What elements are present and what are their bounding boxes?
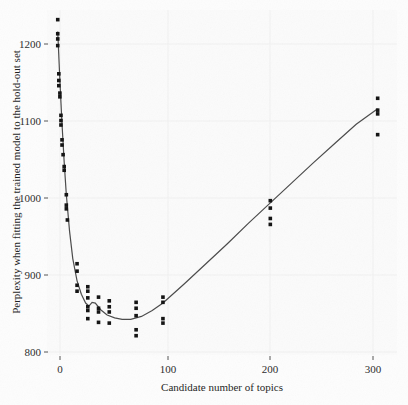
data-point	[134, 334, 138, 338]
x-tick-label-300: 300	[365, 363, 382, 375]
data-point	[86, 317, 90, 321]
data-point	[86, 305, 90, 309]
data-point	[56, 37, 60, 41]
y-tick-label-1000: 1000	[19, 192, 42, 204]
y-tick-label-800: 800	[25, 346, 42, 358]
data-point	[56, 32, 60, 36]
data-point	[161, 295, 165, 299]
data-point	[60, 138, 64, 142]
data-point	[107, 321, 111, 325]
data-point	[269, 217, 273, 221]
data-point	[66, 218, 70, 222]
data-point	[58, 91, 62, 95]
data-point	[134, 328, 138, 332]
data-point	[97, 306, 101, 310]
data-point	[134, 306, 138, 310]
plot-panel	[47, 10, 397, 355]
y-axis-title: Perplexity when fitting the trained mode…	[10, 50, 22, 314]
data-point	[107, 310, 111, 314]
x-axis-title: Candidate number of topics	[161, 381, 283, 393]
data-point	[57, 84, 61, 88]
data-point	[65, 207, 69, 211]
data-point	[107, 299, 111, 303]
data-point	[134, 314, 138, 318]
data-point	[65, 203, 69, 207]
data-point	[56, 18, 60, 22]
data-point	[57, 79, 61, 83]
data-point	[75, 283, 79, 287]
data-point	[75, 262, 79, 266]
data-point	[269, 223, 273, 227]
data-point	[97, 295, 101, 299]
data-point	[376, 112, 380, 116]
data-point	[59, 119, 63, 123]
data-point	[97, 310, 101, 314]
data-point	[59, 114, 63, 118]
data-point	[269, 206, 273, 210]
x-tick-label-100: 100	[160, 363, 177, 375]
data-point	[376, 96, 380, 100]
data-point	[161, 317, 165, 321]
y-tick-label-1200: 1200	[19, 38, 42, 50]
data-point	[75, 269, 79, 273]
y-tick-label-900: 900	[25, 269, 42, 281]
data-point	[59, 123, 63, 127]
data-point	[60, 143, 64, 147]
perplexity-scatter-figure: 800 900 1000 1100 1200 0 100 200 300 Can…	[0, 0, 408, 405]
y-tick-label-1100: 1100	[19, 115, 41, 127]
plot-canvas: 800 900 1000 1100 1200 0 100 200 300 Can…	[0, 0, 408, 405]
x-tick-label-0: 0	[57, 363, 63, 375]
data-point	[86, 309, 90, 313]
data-point	[57, 72, 61, 76]
data-point	[107, 305, 111, 309]
data-point	[65, 193, 69, 197]
data-point	[86, 296, 90, 300]
data-point	[376, 133, 380, 137]
data-point	[161, 301, 165, 305]
data-point	[61, 153, 65, 157]
data-point	[97, 321, 101, 325]
data-point	[269, 199, 273, 203]
data-point	[62, 168, 66, 172]
data-point	[161, 321, 165, 325]
data-point	[134, 301, 138, 305]
data-point	[75, 289, 79, 293]
x-tick-label-200: 200	[262, 363, 279, 375]
data-point	[62, 165, 66, 169]
data-point	[376, 108, 380, 112]
data-point	[86, 289, 90, 293]
data-point	[86, 285, 90, 289]
data-point	[56, 44, 60, 48]
data-point	[58, 95, 62, 99]
